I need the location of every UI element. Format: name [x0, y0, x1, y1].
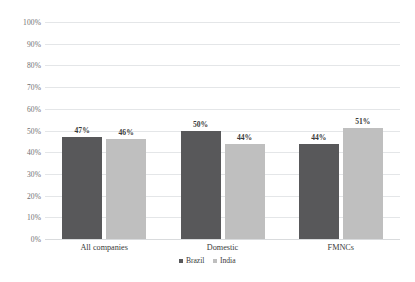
legend-swatch-icon — [179, 259, 183, 263]
bar-value-label: 51% — [355, 117, 370, 126]
y-axis-tick-label: 90% — [27, 39, 41, 48]
legend-item-brazil[interactable]: Brazil — [179, 256, 204, 265]
bar-group: 50%44% — [181, 22, 265, 239]
legend-label: India — [220, 256, 236, 265]
y-axis-tick-label: 40% — [27, 148, 41, 157]
y-axis: 100%90%80%70%60%50%40%30%20%10%0% — [0, 22, 41, 239]
bar-value-label: 44% — [237, 133, 252, 142]
plot-area: 47%46%50%44%44%51% — [45, 22, 400, 239]
bar-value-label: 47% — [75, 126, 90, 135]
bar-brazil-0[interactable]: 47% — [62, 137, 102, 239]
gridline — [45, 239, 400, 240]
bar-india-2[interactable]: 51% — [343, 128, 383, 239]
bar-chart: 100%90%80%70%60%50%40%30%20%10%0% 47%46%… — [0, 0, 415, 282]
y-axis-tick-label: 20% — [27, 191, 41, 200]
x-axis-category-label: Domestic — [163, 243, 281, 252]
x-axis-category-label: All companies — [45, 243, 163, 252]
bar-brazil-1[interactable]: 50% — [181, 131, 221, 240]
y-axis-tick-label: 0% — [31, 235, 41, 244]
y-axis-tick-label: 30% — [27, 169, 41, 178]
legend-swatch-icon — [213, 259, 217, 263]
bar-india-0[interactable]: 46% — [106, 139, 146, 239]
y-axis-tick-label: 80% — [27, 61, 41, 70]
x-axis-category-label: FMNCs — [282, 243, 400, 252]
bar-brazil-2[interactable]: 44% — [299, 144, 339, 239]
y-axis-tick-label: 60% — [27, 104, 41, 113]
chart-legend: BrazilIndia — [0, 256, 415, 265]
legend-label: Brazil — [186, 256, 205, 265]
bar-value-label: 50% — [193, 120, 208, 129]
bar-value-label: 44% — [311, 133, 326, 142]
bar-group: 47%46% — [62, 22, 146, 239]
y-axis-tick-label: 50% — [27, 126, 41, 135]
bar-value-label: 46% — [119, 128, 134, 137]
y-axis-tick-label: 10% — [27, 213, 41, 222]
legend-item-india[interactable]: India — [213, 256, 235, 265]
y-axis-tick-label: 100% — [23, 18, 41, 27]
bar-group: 44%51% — [299, 22, 383, 239]
y-axis-tick-label: 70% — [27, 83, 41, 92]
bar-india-1[interactable]: 44% — [225, 144, 265, 239]
